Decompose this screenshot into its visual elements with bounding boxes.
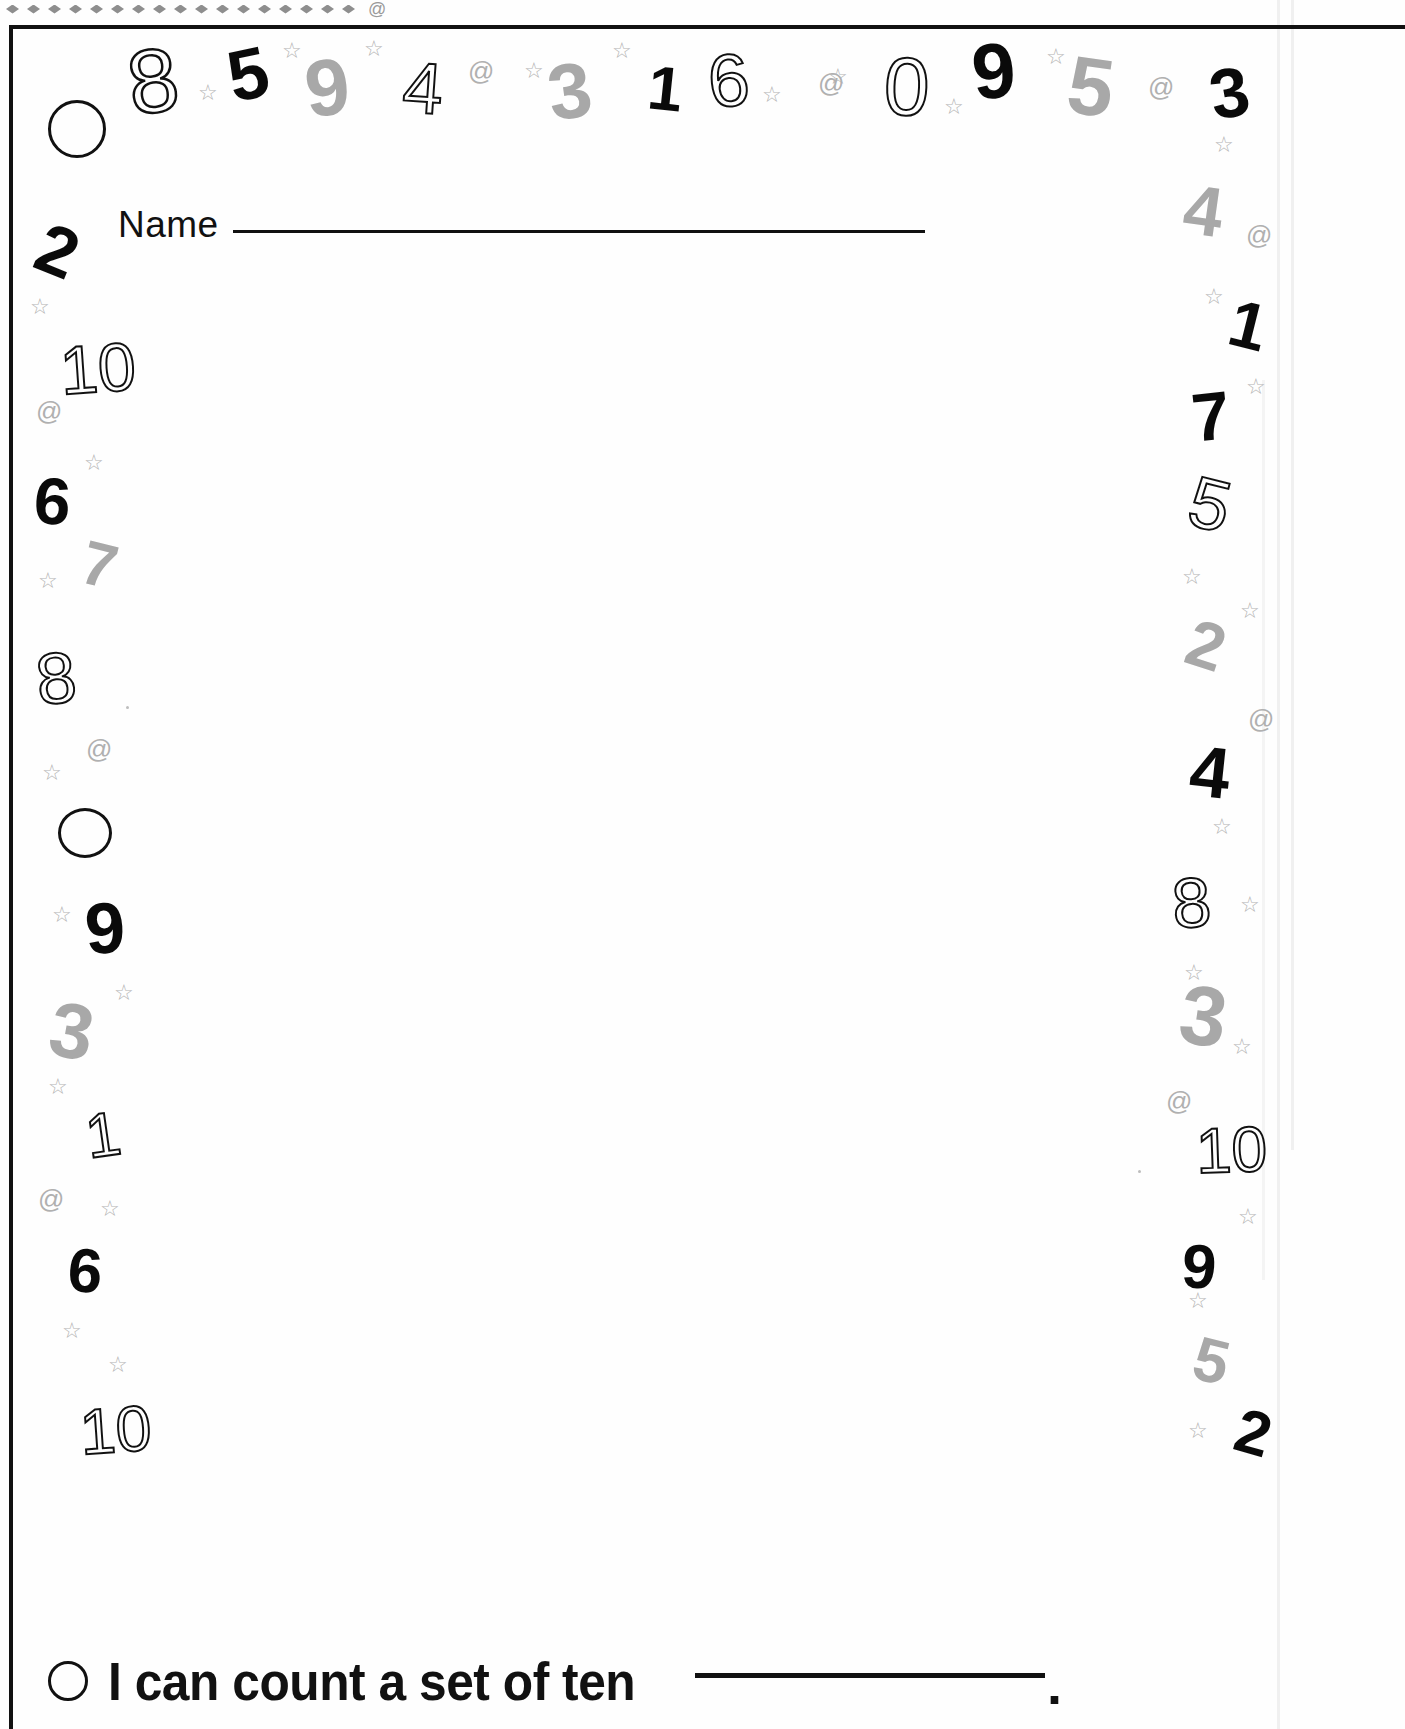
diamond-icon — [342, 5, 355, 14]
decorative-number-5: 5 — [1182, 464, 1238, 544]
star-icon: ☆ — [364, 38, 384, 60]
star-icon: ☆ — [1188, 1420, 1208, 1442]
decorative-number-6: 6 — [704, 42, 753, 120]
diamond-icon — [279, 5, 292, 14]
decorative-number-3: 3 — [543, 49, 597, 132]
star-icon: ☆ — [524, 60, 544, 82]
decorative-number-7: 7 — [75, 531, 123, 600]
star-icon: ☆ — [1232, 1036, 1252, 1058]
diamond-icon — [153, 5, 166, 14]
star-icon: ☆ — [1240, 894, 1260, 916]
scan-streak — [1291, 0, 1294, 1150]
decorative-number-9: 9 — [301, 46, 354, 130]
diamond-icon — [90, 5, 103, 14]
circle-outline-icon[interactable] — [48, 1661, 88, 1701]
star-icon: ☆ — [114, 982, 134, 1004]
spiral-icon: @ — [1148, 74, 1174, 100]
star-icon: ☆ — [1214, 134, 1234, 156]
diamond-icon — [321, 5, 334, 14]
diamond-icon — [195, 5, 208, 14]
star-icon: ☆ — [1046, 46, 1066, 68]
decorative-number-8: 8 — [122, 33, 184, 129]
diamond-icon — [69, 5, 82, 14]
star-icon: ☆ — [1182, 566, 1202, 588]
decorative-number-5: 5 — [221, 35, 275, 114]
spiral-icon: @ — [368, 0, 386, 18]
star-icon: ☆ — [282, 40, 302, 62]
star-icon: ☆ — [38, 570, 58, 592]
star-icon: ☆ — [1240, 600, 1260, 622]
statement-answer-line[interactable] — [695, 1673, 1045, 1678]
diamond-icon — [237, 5, 250, 14]
decorative-number-4: 4 — [1179, 174, 1227, 249]
diamond-icon — [48, 5, 61, 14]
spiral-icon: @ — [1248, 706, 1274, 732]
star-icon: ☆ — [762, 84, 782, 106]
decorative-number-6: 6 — [66, 1239, 105, 1303]
star-icon: ☆ — [1204, 286, 1224, 308]
decorative-zero-circle — [58, 808, 112, 858]
star-icon: ☆ — [1246, 376, 1266, 398]
decorative-number-8: 8 — [32, 640, 79, 716]
scan-streak — [1277, 0, 1280, 1729]
decorative-number-9: 9 — [968, 30, 1019, 112]
star-icon: ☆ — [52, 904, 72, 926]
decorative-number-3: 3 — [1204, 55, 1255, 131]
spiral-icon: @ — [36, 398, 62, 424]
worksheet-page: @ 859431609532106789316104175248310952☆☆… — [0, 0, 1405, 1729]
star-icon: ☆ — [108, 1354, 128, 1376]
decorative-number-4: 4 — [1186, 734, 1233, 810]
name-input-line[interactable] — [233, 230, 925, 233]
diamond-icon — [174, 5, 187, 14]
star-icon: ☆ — [42, 762, 62, 784]
decorative-number-0: 0 — [883, 45, 931, 129]
decorative-number-1: 1 — [82, 1102, 125, 1168]
decorative-number-2: 2 — [26, 211, 88, 290]
decorative-number-2: 2 — [1179, 608, 1234, 682]
star-icon: ☆ — [100, 1198, 120, 1220]
star-icon: ☆ — [1188, 1290, 1208, 1312]
decorative-number-5: 5 — [1063, 43, 1120, 131]
paper-speck — [126, 706, 129, 709]
frame-left-border — [9, 25, 13, 1729]
decorative-number-2: 2 — [1228, 1398, 1278, 1467]
star-icon: ☆ — [944, 96, 964, 118]
decorative-number-7: 7 — [1189, 380, 1234, 452]
diamond-icon — [111, 5, 124, 14]
star-icon: ☆ — [612, 40, 632, 62]
decorative-number-10: 10 — [78, 1396, 153, 1465]
decorative-number-8: 8 — [1170, 867, 1214, 940]
spiral-icon: @ — [86, 736, 112, 762]
paper-speck — [1138, 1170, 1141, 1173]
decorative-number-4: 4 — [401, 51, 446, 126]
star-icon: ☆ — [1212, 816, 1232, 838]
name-label: Name — [118, 204, 219, 246]
diamond-icon — [300, 5, 313, 14]
star-icon: ☆ — [48, 1076, 68, 1098]
name-field-row: Name — [118, 204, 925, 246]
decorative-number-6: 6 — [32, 467, 73, 535]
diamond-icon — [27, 5, 40, 14]
star-icon: ☆ — [1184, 962, 1204, 984]
spiral-icon: @ — [1166, 1088, 1192, 1114]
diamond-icon — [132, 5, 145, 14]
diamond-icon — [6, 5, 19, 14]
spiral-icon: @ — [468, 58, 494, 84]
statement-label: I can count a set of ten — [108, 1650, 635, 1712]
star-icon: ☆ — [1238, 1206, 1258, 1228]
decorative-number-5: 5 — [1187, 1327, 1235, 1396]
statement-row: I can count a set of ten . — [48, 1650, 1062, 1712]
star-icon: ☆ — [30, 296, 50, 318]
decorative-number-10: 10 — [58, 331, 138, 404]
star-icon: ☆ — [62, 1320, 82, 1342]
spiral-icon: @ — [818, 70, 844, 96]
star-icon: ☆ — [84, 452, 104, 474]
frame-top-border — [9, 25, 1405, 29]
top-diamond-band: @ — [6, 0, 386, 18]
decorative-number-10: 10 — [1195, 1117, 1268, 1183]
diamond-icon — [216, 5, 229, 14]
spiral-icon: @ — [1246, 222, 1272, 248]
decorative-number-9: 9 — [83, 891, 128, 966]
spiral-icon: @ — [38, 1186, 64, 1212]
decorative-number-1: 1 — [645, 56, 686, 121]
